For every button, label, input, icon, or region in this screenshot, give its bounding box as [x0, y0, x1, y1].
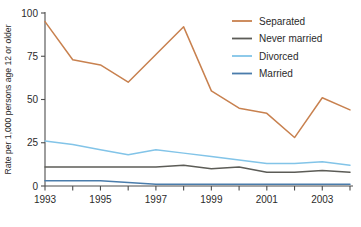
legend-label-never-married: Never married — [259, 33, 322, 44]
y-tick-label: 100 — [21, 8, 38, 19]
line-chart: 0255075100 199319951997199920012003 Sepa… — [0, 0, 361, 227]
legend-label-divorced: Divorced — [259, 51, 298, 62]
y-axis-title: Rate per 1,000 persons age 12 or older — [3, 24, 13, 174]
x-tick-label: 1999 — [200, 194, 223, 205]
series-lines — [45, 22, 350, 185]
series-line-never-married — [45, 165, 350, 172]
x-tick-label: 1993 — [34, 194, 57, 205]
series-line-married — [45, 181, 350, 184]
y-axis: 0255075100 — [21, 8, 45, 192]
legend-label-separated: Separated — [259, 16, 305, 27]
x-tick-label: 2003 — [311, 194, 334, 205]
x-tick-label: 1995 — [89, 194, 112, 205]
x-tick-label: 1997 — [145, 194, 168, 205]
y-tick-label: 50 — [27, 94, 39, 105]
x-tick-label: 2001 — [256, 194, 279, 205]
x-axis: 199319951997199920012003 — [34, 186, 353, 205]
chart-canvas: 0255075100 199319951997199920012003 Sepa… — [0, 0, 361, 227]
y-tick-label: 75 — [27, 51, 39, 62]
y-axis-title-text: Rate per 1,000 persons age 12 or older — [3, 24, 13, 174]
chart-legend: SeparatedNever marriedDivorcedMarried — [232, 16, 322, 79]
y-tick-label: 25 — [27, 137, 39, 148]
legend-label-married: Married — [259, 68, 293, 79]
series-line-divorced — [45, 141, 350, 165]
y-tick-label: 0 — [32, 181, 38, 192]
